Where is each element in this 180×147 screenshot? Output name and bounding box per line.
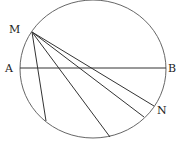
chord-3: [32, 32, 144, 117]
chord-1: [32, 32, 46, 121]
geometry-diagram: M A B N: [0, 0, 180, 147]
circle-figure: [0, 0, 180, 147]
chord-2: [32, 32, 110, 137]
label-m: M: [9, 24, 20, 35]
label-a: A: [5, 63, 13, 74]
label-n: N: [157, 105, 167, 116]
label-b: B: [168, 63, 176, 74]
chord-4: [32, 32, 154, 106]
